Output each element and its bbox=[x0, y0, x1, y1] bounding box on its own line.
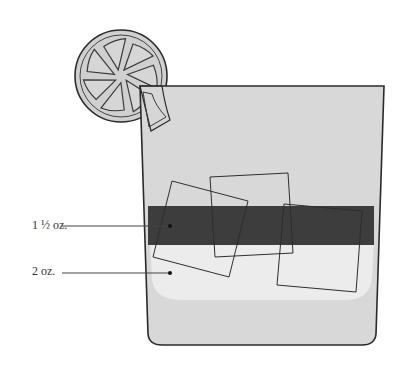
leader-dot-bottom bbox=[168, 271, 172, 275]
label-top-layer: 1 ½ oz. bbox=[32, 218, 67, 233]
rocks-glass bbox=[140, 86, 384, 345]
leader-dot-top bbox=[168, 224, 172, 228]
cocktail-diagram bbox=[0, 0, 405, 370]
label-bottom-layer: 2 oz. bbox=[32, 264, 55, 279]
liquid-layer-top bbox=[148, 206, 374, 245]
